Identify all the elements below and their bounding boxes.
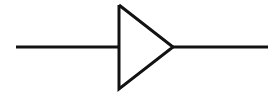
circuit-symbol-svg <box>0 0 279 94</box>
schematic-canvas <box>0 0 279 94</box>
